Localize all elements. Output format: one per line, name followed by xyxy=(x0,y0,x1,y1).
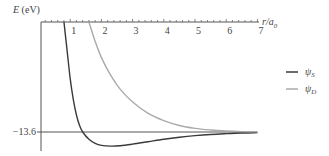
x-tick-label: 5 xyxy=(196,25,201,36)
x-tick-label: 3 xyxy=(134,25,139,36)
legend: ψS ψD xyxy=(286,66,316,96)
x-tick-label: 1 xyxy=(71,25,76,36)
x-tick-label: 6 xyxy=(227,25,232,36)
series-psi-s-line xyxy=(64,22,257,146)
x-axis-tick-labels: 1234567 xyxy=(71,25,263,36)
reference-line-label: −13.6 xyxy=(13,126,36,137)
series-psi-d-line xyxy=(89,22,257,132)
x-axis-title: r/a0 xyxy=(262,16,278,30)
x-tick-label: 4 xyxy=(165,25,170,36)
legend-label-psi-s: ψS xyxy=(305,66,315,79)
x-tick-label: 2 xyxy=(102,25,107,36)
legend-label-psi-d: ψD xyxy=(305,83,316,96)
y-axis-title: E (eV) xyxy=(12,4,40,16)
energy-chart: E (eV) 1234567 r/a0 −13.6 ψS ψD xyxy=(0,0,329,156)
